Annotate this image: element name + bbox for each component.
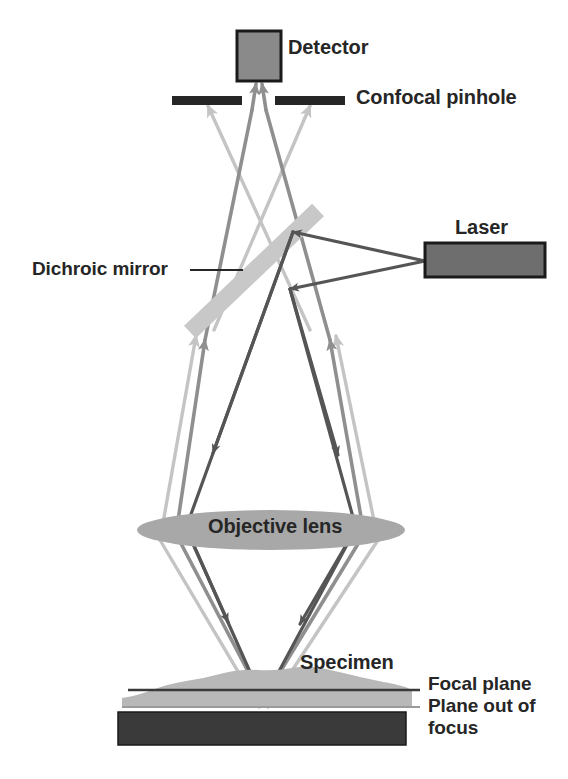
plane-out-of-focus-line1: Plane out of	[428, 695, 536, 716]
detector-label: Detector	[288, 36, 368, 59]
laser-box	[425, 243, 545, 277]
specimen-label: Specimen	[300, 651, 394, 674]
confocal-pinhole-right-screen	[275, 96, 345, 105]
plane-out-of-focus-label: Plane out offocus	[428, 695, 536, 739]
plane-out-of-focus-line2: focus	[428, 717, 478, 738]
emission-ray-into-detector-left	[252, 84, 256, 110]
focal-plane-label: Focal plane	[428, 673, 531, 695]
detector-box	[237, 31, 281, 81]
diagram-canvas	[0, 0, 568, 779]
dichroic-mirror-label: Dichroic mirror	[32, 258, 168, 280]
laser-label: Laser	[455, 216, 508, 239]
in-focus-emission-ray-group	[176, 84, 364, 700]
confocal-microscope-diagram: Detector Confocal pinhole Laser Dichroic…	[0, 0, 568, 779]
objective-lens-label: Objective lens	[208, 515, 342, 538]
confocal-pinhole-left-screen	[172, 96, 242, 105]
laser-ray-upper	[293, 232, 425, 261]
confocal-pinhole-label: Confocal pinhole	[356, 86, 517, 109]
excitation-arrow-right	[290, 289, 338, 455]
microscope-slide	[118, 712, 406, 745]
emission-ray-right-upper	[330, 340, 364, 534]
out-of-focus-ray-right-upper	[336, 336, 378, 540]
out-of-focus-ray-group	[160, 106, 378, 707]
emission-ray-into-detector-right	[262, 84, 266, 110]
